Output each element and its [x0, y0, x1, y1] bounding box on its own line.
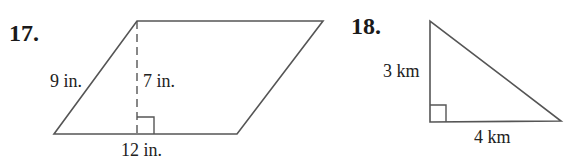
parallelogram — [54, 21, 323, 134]
right-triangle — [430, 21, 561, 122]
right-angle-marker — [430, 105, 446, 122]
height-label: 7 in. — [143, 71, 175, 91]
problem-17: 17. 9 in. 7 in. 12 in. — [9, 20, 323, 160]
base-label: 12 in. — [121, 140, 162, 160]
right-angle-marker — [137, 117, 154, 134]
geometry-figures: 17. 9 in. 7 in. 12 in. 18. 3 km 4 km — [0, 0, 585, 163]
horizontal-leg-label: 4 km — [474, 127, 511, 147]
side-label: 9 in. — [50, 71, 82, 91]
vertical-leg-label: 3 km — [383, 61, 420, 81]
problem-number-17: 17. — [9, 20, 39, 46]
problem-18: 18. 3 km 4 km — [351, 13, 561, 147]
problem-number-18: 18. — [351, 13, 381, 39]
